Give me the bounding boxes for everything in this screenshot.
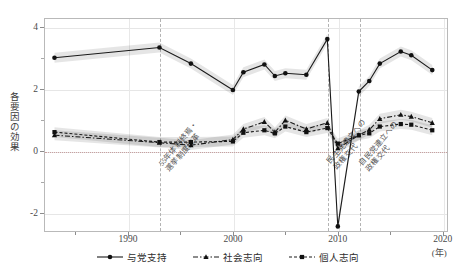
data-point-marker — [273, 74, 278, 79]
data-point-marker — [325, 37, 330, 42]
chart-figure: 各要因の効果 420-21990200020102020 55年体制終焉・選挙制… — [0, 0, 456, 274]
data-point-marker — [336, 142, 340, 146]
data-point-marker — [430, 68, 435, 73]
data-point-marker — [367, 131, 371, 135]
data-point-marker — [262, 62, 267, 67]
data-point-marker — [409, 123, 413, 127]
data-point-marker — [52, 55, 57, 60]
data-point-marker — [336, 224, 341, 229]
data-point-marker — [262, 128, 266, 132]
data-point-marker — [367, 79, 372, 84]
data-point-marker — [241, 131, 245, 135]
data-point-marker — [398, 49, 403, 54]
data-point-marker — [231, 139, 235, 143]
data-point-marker — [377, 61, 382, 66]
data-point-marker — [273, 131, 277, 135]
data-point-marker — [157, 140, 161, 144]
data-point-marker — [409, 53, 414, 58]
data-point-marker — [231, 88, 236, 93]
data-point-marker — [283, 124, 287, 128]
data-point-marker — [399, 122, 403, 126]
data-point-marker — [241, 70, 246, 75]
data-point-marker — [283, 71, 288, 76]
data-point-marker — [304, 130, 308, 134]
series-layer — [0, 0, 456, 274]
series-group — [52, 119, 434, 149]
data-point-marker — [189, 140, 193, 144]
data-point-marker — [325, 126, 329, 130]
data-point-marker — [157, 45, 162, 50]
data-point-marker — [357, 133, 361, 137]
data-point-marker — [357, 89, 362, 94]
data-point-marker — [430, 128, 434, 132]
data-point-marker — [304, 72, 309, 77]
data-point-marker — [378, 124, 382, 128]
data-point-marker — [189, 61, 194, 66]
data-point-marker — [52, 130, 56, 134]
